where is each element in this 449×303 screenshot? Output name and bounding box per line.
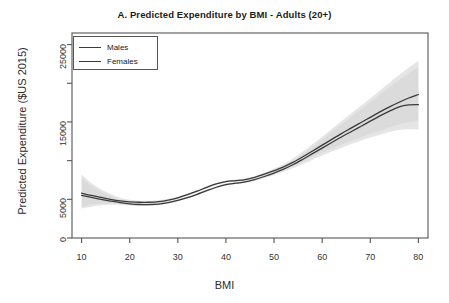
legend-label-males: Males: [107, 44, 128, 52]
legend-label-females: Females: [107, 58, 138, 66]
confidence-bands: [82, 61, 419, 209]
chart-legend: Males Females: [73, 36, 158, 70]
x-tick-label: 10: [67, 252, 97, 262]
legend-item-females: Females: [79, 55, 138, 68]
x-tick-label: 50: [259, 252, 289, 262]
chart-figure: A. Predicted Expenditure by BMI - Adults…: [0, 0, 449, 303]
confidence-band-females: [82, 67, 419, 209]
y-tick-label: 25000: [58, 44, 68, 104]
x-tick-label: 60: [307, 252, 337, 262]
legend-line-swatch-males: [79, 47, 101, 48]
x-tick-label: 70: [355, 252, 385, 262]
x-tick-label: 80: [403, 252, 433, 262]
legend-item-males: Males: [79, 41, 128, 54]
y-tick-label: 5000: [58, 198, 68, 258]
y-tick-label: 15000: [58, 121, 68, 181]
x-tick-label: 30: [163, 252, 193, 262]
x-tick-label: 40: [211, 252, 241, 262]
legend-line-swatch-females: [79, 61, 101, 62]
x-tick-label: 20: [115, 252, 145, 262]
